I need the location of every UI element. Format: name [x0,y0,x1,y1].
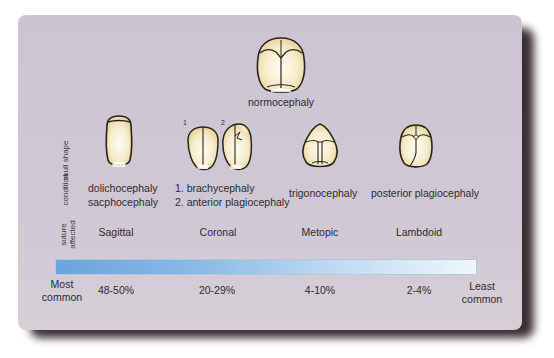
frequency-sagittal: 48-50% [86,284,146,296]
condition-line: 2. anterior plagiocephaly [175,195,289,209]
common-label: common [460,293,504,306]
suture-coronal: Coronal [188,226,248,238]
anterior-plagiocephaly-skull-icon [221,122,253,172]
brachycephaly-skull-icon [186,124,220,172]
common-label: common [40,291,84,304]
suture-metopic: Metopic [290,226,350,238]
frequency-lambdoid: 2-4% [389,284,449,296]
condition-line: 1. brachycephaly [175,181,289,195]
condition-trigonocephaly: trigonocephaly [289,186,357,200]
condition-line: dolichocephaly [88,181,158,195]
condition-line: posterior plagiocephaly [371,186,479,200]
trigonocephaly-skull-icon [300,122,340,170]
least-label: Least [460,280,504,293]
row-label-suture-affected: suture affected [52,218,78,254]
row-label-affected: affected [68,218,77,252]
condition-posterior-plagiocephaly: posterior plagiocephaly [371,186,479,200]
frequency-gradient-bar [55,259,477,275]
suture-lambdoid: Lambdoid [389,226,449,238]
frequency-coronal: 20-29% [187,284,247,296]
normocephaly-label: normocephaly [236,96,326,108]
condition-dolichocephaly: dolichocephaly sacphocephaly [88,181,158,209]
most-common-label: Most common [40,278,84,304]
dolichocephaly-skull-icon [104,114,134,170]
frequency-metopic: 4-10% [290,284,350,296]
least-common-label: Least common [460,280,504,306]
condition-line: sacphocephaly [88,195,158,209]
suture-sagittal: Sagittal [86,226,146,238]
row-label-condition: condition [61,167,70,213]
condition-coronal: 1. brachycephaly 2. anterior plagiocepha… [175,181,289,209]
normal-skull-icon [253,36,309,94]
posterior-plagiocephaly-skull-icon [398,123,434,169]
most-label: Most [40,278,84,291]
row-label-suture: suture [59,218,68,252]
condition-line: trigonocephaly [289,186,357,200]
